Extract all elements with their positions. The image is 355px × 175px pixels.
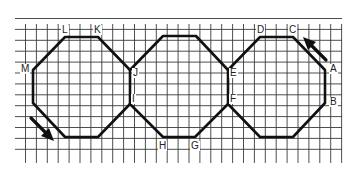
vertex-label-f: F — [229, 94, 237, 104]
vertex-label-e: E — [229, 68, 238, 78]
vertex-label-k: K — [93, 25, 102, 35]
vertex-label-i: I — [131, 94, 136, 104]
vertex-label-j: J — [132, 68, 139, 78]
vertex-label-h: H — [158, 141, 167, 151]
vertex-label-m: M — [20, 64, 30, 74]
vertex-label-c: C — [288, 25, 297, 35]
vertex-label-b: B — [329, 97, 338, 107]
vertex-label-d: D — [256, 25, 265, 35]
grid-lines — [15, 19, 342, 164]
vertex-label-g: G — [190, 141, 200, 151]
octagon-path-diagram — [0, 0, 355, 175]
vertex-label-l: L — [61, 25, 69, 35]
vertex-label-a: A — [329, 64, 338, 74]
